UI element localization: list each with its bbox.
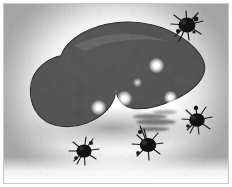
photographic-plate bbox=[4, 4, 228, 183]
film-grain bbox=[4, 4, 228, 183]
figure-root: Whole-organ bioluminescence plate liver … bbox=[0, 0, 232, 187]
